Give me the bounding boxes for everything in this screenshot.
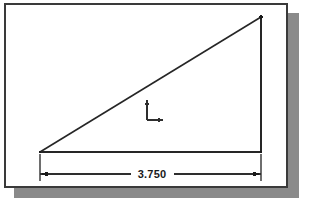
dimension-value-text: 3.750	[138, 168, 167, 180]
vertex-node-bottom-left	[38, 150, 41, 153]
sheet-body	[4, 3, 287, 187]
drawing-canvas: 3.750	[0, 0, 309, 208]
vertex-node-bottom-right	[259, 150, 262, 153]
cad-drawing-svg: 3.750	[0, 0, 309, 208]
vertex-node-top-right	[259, 15, 263, 19]
